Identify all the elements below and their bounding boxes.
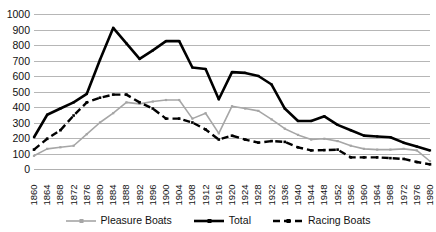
line-chart: 01002003004005006007008009001000 1860186…: [0, 0, 436, 232]
y-axis-tick-label: 300: [12, 117, 30, 128]
data-point: [416, 145, 418, 147]
legend-label: Racing Boats: [308, 215, 370, 226]
x-axis-tick-label: 1916: [213, 184, 223, 205]
data-point: [46, 137, 49, 140]
data-point: [46, 114, 48, 116]
data-point: [284, 128, 286, 130]
x-axis-tick-label: 1892: [134, 184, 144, 205]
data-point: [376, 135, 378, 137]
data-point: [165, 117, 168, 120]
x-axis-tick-label: 1944: [306, 184, 316, 205]
line-swatch-solid-gray: [66, 216, 96, 226]
data-point: [178, 40, 180, 42]
data-point: [310, 149, 313, 152]
data-point: [112, 93, 115, 96]
data-point: [125, 93, 128, 96]
data-point: [59, 129, 62, 132]
x-axis-tick-label: 1864: [42, 184, 52, 205]
data-point: [73, 145, 75, 147]
data-point: [46, 148, 48, 150]
data-point: [350, 129, 352, 131]
data-point: [403, 148, 405, 150]
data-point: [350, 145, 352, 147]
data-point: [403, 142, 405, 144]
data-point: [72, 114, 75, 117]
data-point: [191, 118, 193, 120]
data-point: [86, 133, 88, 135]
data-point: [112, 27, 114, 29]
x-axis-tick-label: 1980: [425, 184, 435, 205]
data-point: [178, 99, 180, 101]
data-point: [99, 121, 101, 123]
data-point: [59, 146, 61, 148]
data-point: [257, 75, 259, 77]
x-axis-tick-label: 1976: [411, 184, 421, 205]
y-axis-tick-label: 700: [12, 55, 30, 66]
x-axis-tick-label: 1960: [359, 184, 369, 205]
x-axis-tick-label: 1876: [81, 184, 91, 205]
x-axis-tick-label: 1924: [240, 184, 250, 205]
data-point: [33, 136, 35, 138]
data-point: [363, 156, 366, 159]
data-point: [270, 140, 273, 143]
line-swatch-dashed-black: [273, 216, 303, 226]
data-point: [376, 156, 379, 159]
x-axis-tick-label: 1964: [372, 184, 382, 205]
data-point: [99, 59, 101, 61]
data-point: [33, 148, 36, 151]
data-point: [86, 101, 89, 104]
x-axis: 1860186418681872187618801884188818921896…: [34, 171, 430, 207]
data-point: [218, 138, 221, 141]
data-point: [389, 149, 391, 151]
data-point: [205, 112, 207, 114]
legend-item[interactable]: Racing Boats: [273, 215, 370, 226]
series-line-total: [34, 28, 430, 150]
data-point: [310, 138, 312, 140]
x-axis-tick-label: 1972: [398, 184, 408, 205]
legend-item[interactable]: Pleasure Boats: [66, 215, 172, 226]
data-point: [389, 136, 391, 138]
data-point: [112, 112, 114, 114]
x-axis-tick-label: 1860: [29, 184, 39, 205]
gridline: [34, 169, 430, 170]
data-point: [323, 115, 325, 117]
data-point: [191, 66, 193, 68]
data-point: [337, 124, 339, 126]
data-point: [218, 132, 220, 134]
data-point: [363, 135, 365, 137]
x-axis-tick-label: 1872: [68, 184, 78, 205]
legend-label: Total: [229, 215, 251, 226]
x-axis-tick-label: 1940: [293, 184, 303, 205]
data-point: [152, 49, 154, 51]
data-point: [284, 107, 286, 109]
data-point: [363, 148, 365, 150]
legend-item[interactable]: Total: [194, 215, 251, 226]
data-point: [244, 72, 246, 74]
line-swatch-solid-black: [194, 216, 224, 226]
data-point: [310, 120, 312, 122]
y-axis-tick-label: 400: [12, 102, 30, 113]
x-axis-tick-label: 1928: [253, 184, 263, 205]
data-point: [231, 105, 233, 107]
y-axis-tick-label: 1000: [7, 9, 30, 20]
data-point: [323, 149, 326, 152]
legend-label: Pleasure Boats: [101, 215, 172, 226]
series-line-racing-boats: [34, 95, 430, 165]
data-point: [337, 140, 339, 142]
y-axis-tick-label: 900: [12, 24, 30, 35]
data-point: [33, 155, 35, 157]
y-axis-tick-label: 100: [12, 148, 30, 159]
data-point: [125, 42, 127, 44]
x-axis-tick-label: 1948: [319, 184, 329, 205]
data-point: [231, 71, 233, 73]
x-axis-tick-label: 1952: [332, 184, 342, 205]
x-axis-tick-label: 1880: [95, 184, 105, 205]
y-axis-tick-label: 500: [12, 86, 30, 97]
data-point: [231, 134, 234, 137]
data-point: [191, 121, 194, 124]
data-point: [257, 110, 259, 112]
data-point: [297, 120, 299, 122]
x-axis-tick-label: 1868: [55, 184, 65, 205]
data-point: [429, 149, 431, 151]
data-point: [416, 149, 418, 151]
